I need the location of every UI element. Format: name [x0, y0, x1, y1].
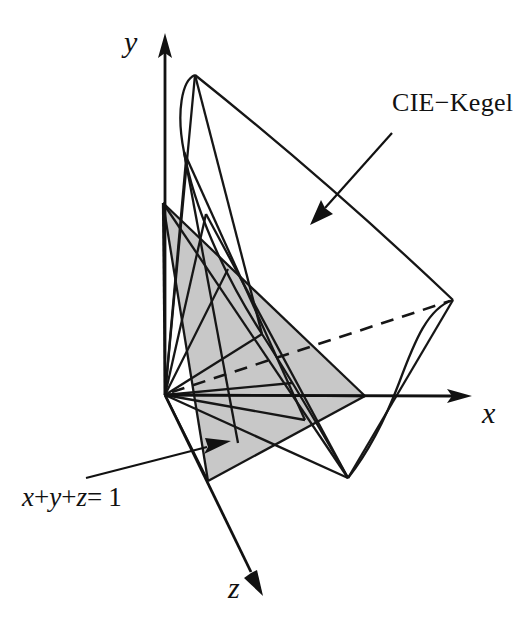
cone-edge-right-bottom	[348, 300, 453, 478]
plane-equation-leader-line	[86, 447, 207, 478]
plane-eq-plus-2: +	[61, 482, 76, 512]
y-axis-label: y	[124, 27, 137, 57]
z-axis-arrowhead	[244, 570, 263, 596]
cie-kegel-leader-line	[325, 133, 392, 208]
cie-cone-diagram: y x z CIE−Kegel x+y+z=1	[0, 0, 530, 633]
x-axis-line	[165, 395, 452, 396]
z-axis-label: z	[228, 573, 240, 603]
plane-eq-value: 1	[108, 482, 122, 512]
plane-eq-term-x: x	[22, 482, 34, 512]
plane-eq-term-y: y	[49, 482, 61, 512]
x-axis-label: x	[482, 398, 495, 428]
cie-kegel-label: CIE−Kegel	[392, 90, 513, 116]
plane-eq-plus-1: +	[34, 482, 49, 512]
plane-equation-label: x+y+z=1	[22, 484, 122, 511]
plane-eq-term-z: z	[76, 482, 87, 512]
plane-eq-equals: =	[87, 482, 102, 512]
